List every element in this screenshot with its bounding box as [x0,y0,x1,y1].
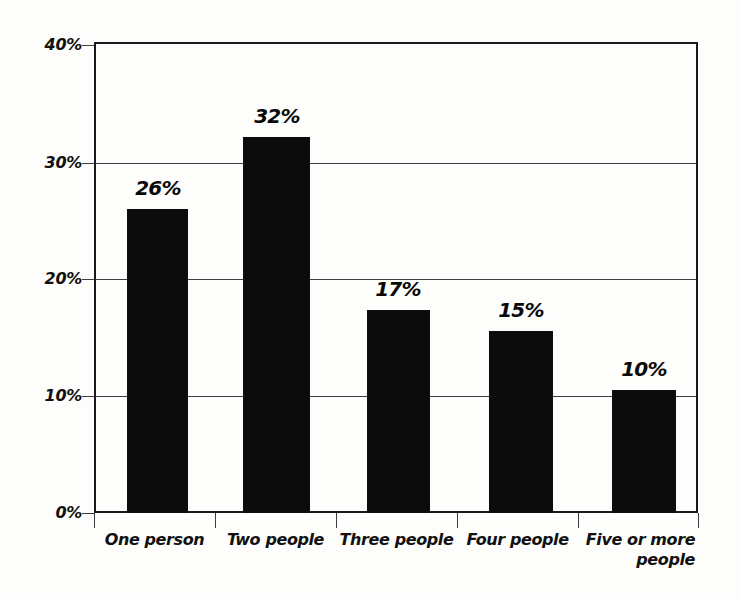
x-axis-label-one-person: One person [94,530,215,550]
x-axis-tick-2 [336,513,337,528]
bar-two-people [243,137,310,513]
y-axis-label-20: 20% [6,271,82,287]
bar-three-people [367,310,430,513]
value-label-one-person: 26% [117,178,199,198]
x-axis-label-four-people: Four people [457,530,578,550]
y-axis-tick-30 [82,163,94,164]
y-axis-label-40: 40% [6,37,82,53]
y-axis-label-30: 30% [6,155,82,171]
y-axis-tick-10 [82,396,94,397]
x-axis-label-two-people: Two people [215,530,336,550]
x-axis-label-five-or-more-line1: Five or more [586,530,695,549]
x-axis-label-three-people: Three people [336,530,457,550]
x-axis-tick-5 [698,513,699,528]
x-axis-tick-0 [94,513,95,528]
x-axis-tick-4 [578,513,579,528]
x-axis-label-five-or-more: Five or more people [578,530,703,570]
y-axis-tick-0 [82,513,94,514]
bar-four-people [489,331,553,513]
bar-one-person [127,209,188,513]
x-axis-label-two-people-line1: Two people [227,530,324,549]
x-axis-label-five-or-more-line2: people [578,550,703,570]
y-axis-label-10: 10% [6,388,82,404]
x-axis-tick-3 [457,513,458,528]
value-label-five-or-more: 10% [603,359,685,379]
value-label-two-people: 32% [236,106,318,126]
y-axis-label-0: 0% [6,505,82,521]
bar-chart: 40% 30% 20% 10% 0% 26% 32% 17% 15% 10% O… [0,0,741,598]
value-label-three-people: 17% [357,279,439,299]
y-axis-tick-40 [82,45,94,46]
x-axis-label-four-people-line1: Four people [466,530,568,549]
x-axis-tick-1 [215,513,216,528]
x-axis-label-one-person-line1: One person [105,530,205,549]
bar-five-or-more [612,390,676,513]
x-axis-label-three-people-line1: Three people [340,530,454,549]
y-axis-tick-20 [82,279,94,280]
value-label-four-people: 15% [480,300,562,320]
